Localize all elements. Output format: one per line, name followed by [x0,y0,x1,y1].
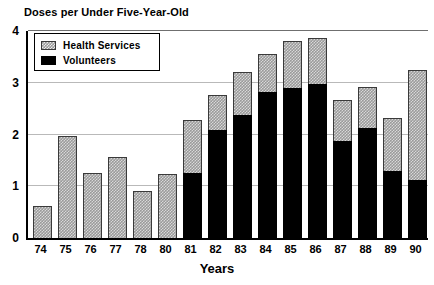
x-tick-label: 74 [27,243,54,255]
x-tick-label: 81 [177,243,204,255]
x-tick-label: 84 [252,243,279,255]
bar-segment-health-services[interactable] [333,100,352,141]
bar-group[interactable] [33,206,52,238]
bar-group[interactable] [208,95,227,238]
bar-segment-volunteers[interactable] [258,92,277,238]
bar-group[interactable] [283,41,302,238]
x-tick-label: 76 [77,243,104,255]
x-axis-label: Years [0,261,434,276]
bar-group[interactable] [183,120,202,238]
x-tick-label: 86 [302,243,329,255]
x-tick-label: 90 [402,243,429,255]
bar-segment-volunteers[interactable] [408,180,427,238]
x-tick-label: 75 [52,243,79,255]
bar-group[interactable] [83,173,102,238]
bar-segment-volunteers[interactable] [233,115,252,238]
bar-segment-volunteers[interactable] [308,84,327,238]
bar-segment-health-services[interactable] [258,54,277,92]
bar-segment-health-services[interactable] [33,206,52,238]
y-tick-label: 2 [12,129,19,141]
bar-segment-health-services[interactable] [283,41,302,89]
bar-group[interactable] [233,72,252,238]
x-tick-label: 82 [202,243,229,255]
chart-legend: Health ServicesVolunteers [34,33,160,71]
x-tick-label: 83 [227,243,254,255]
y-tick-label: 1 [12,180,19,192]
bar-group[interactable] [408,70,427,238]
y-tick-label: 3 [12,77,19,89]
bar-segment-health-services[interactable] [83,173,102,238]
legend-item: Health Services [41,38,159,52]
bar-segment-volunteers[interactable] [383,171,402,238]
bar-group[interactable] [258,54,277,238]
x-tick-label: 89 [377,243,404,255]
bar-segment-health-services[interactable] [108,157,127,238]
x-tick-label: 85 [277,243,304,255]
bar-segment-health-services[interactable] [158,174,177,238]
x-tick-label: 77 [102,243,129,255]
bar-segment-health-services[interactable] [233,72,252,115]
bar-group[interactable] [158,174,177,238]
bar-group[interactable] [358,87,377,238]
bar-segment-health-services[interactable] [358,87,377,128]
bar-segment-health-services[interactable] [58,136,77,238]
x-tick-label: 87 [327,243,354,255]
bar-segment-health-services[interactable] [133,191,152,238]
bar-group[interactable] [58,136,77,238]
bar-group[interactable] [308,38,327,238]
x-tick-label: 80 [152,243,179,255]
bar-chart-figure: Doses per Under Five-Year-Old 01234 7475… [0,0,434,285]
bar-segment-volunteers[interactable] [283,88,302,238]
bar-segment-volunteers[interactable] [358,128,377,238]
legend-item-label: Volunteers [63,55,116,66]
bar-group[interactable] [108,157,127,238]
x-axis-tick-labels: 74757677788081828384858687888990 [26,243,426,259]
x-tick-label: 78 [127,243,154,255]
legend-item-label: Health Services [63,40,141,51]
bar-segment-health-services[interactable] [383,118,402,170]
y-tick-label: 4 [12,25,19,37]
bar-group[interactable] [333,100,352,238]
legend-item: Volunteers [41,53,159,67]
y-tick-label: 0 [12,232,19,244]
bar-segment-health-services[interactable] [408,70,427,180]
bar-segment-volunteers[interactable] [333,141,352,238]
bar-segment-health-services[interactable] [308,38,327,85]
bar-group[interactable] [133,191,152,238]
solid-black-swatch [41,56,56,65]
bar-segment-health-services[interactable] [183,120,202,173]
x-tick-label: 88 [352,243,379,255]
bar-segment-volunteers[interactable] [208,130,227,238]
bar-group[interactable] [383,118,402,238]
y-axis-tick-labels: 01234 [0,0,26,285]
chart-title: Doses per Under Five-Year-Old [24,6,189,18]
bar-segment-health-services[interactable] [208,95,227,131]
checkerboard-swatch [41,41,56,50]
bar-segment-volunteers[interactable] [183,173,202,238]
